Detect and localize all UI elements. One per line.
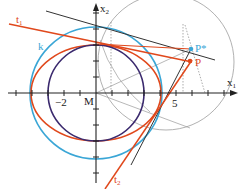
construction-circle [98,0,234,130]
tick-label-neg2: −2 [55,96,67,108]
tangent-t2 [105,60,192,189]
point-p [188,59,193,64]
p-star-label: P* [195,42,207,54]
diagram-canvas: x2 x1 M −2 5 k P* P t1 t2 [0,0,239,189]
ellipse-diagram: x2 x1 M −2 5 k P* P t1 t2 [0,0,239,189]
x2-axis-label: x2 [100,2,110,16]
p-label: P [195,56,201,68]
t1-label: t1 [16,13,23,27]
x2-axis-arrow-icon [93,3,99,11]
point-p-star [189,47,194,52]
origin-label: M [84,95,94,107]
tick-label-5: 5 [172,97,178,109]
circle-k-label: k [38,40,44,52]
x1-axis-label: x1 [227,76,237,90]
t2-label: t2 [114,173,121,187]
tangent-t1 [9,24,192,62]
x1-axis-arrow-icon [230,90,238,96]
